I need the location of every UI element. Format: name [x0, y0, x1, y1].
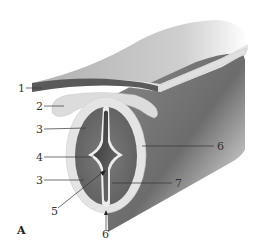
label-3a: 3 [36, 123, 43, 136]
label-4: 4 [36, 151, 43, 164]
label-2: 2 [36, 100, 43, 113]
label-7: 7 [175, 177, 182, 190]
neural-tube-diagram: 1 2 3 4 3 5 6 6 7 A [0, 0, 259, 244]
label-6a: 6 [102, 228, 109, 241]
label-1: 1 [18, 82, 25, 95]
panel-label: A [16, 224, 26, 237]
label-6b: 6 [217, 140, 224, 153]
label-3b: 3 [36, 174, 43, 187]
cross-section [66, 97, 146, 213]
label-5: 5 [51, 205, 58, 218]
